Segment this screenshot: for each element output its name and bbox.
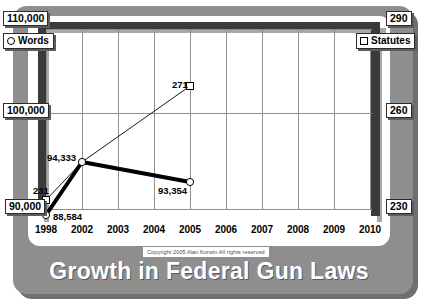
x-tick-2004: 2004 <box>134 224 174 236</box>
y-left-tick-110000: 110,000 <box>3 11 48 26</box>
right-axis-bar <box>371 22 380 216</box>
y-right-tick-290: 290 <box>386 11 412 26</box>
x-tick-2009: 2009 <box>314 224 354 236</box>
plot-area <box>46 29 372 210</box>
copyright-notice: Copyright 2005 Alan Korwin All rights re… <box>143 247 269 257</box>
x-tick-2003: 2003 <box>98 224 138 236</box>
label-words-2005: 93,354 <box>158 186 187 196</box>
x-tick-2006: 2006 <box>206 224 246 236</box>
words-marker-2005 <box>186 178 193 185</box>
legend-statutes-label: Statutes <box>371 35 410 47</box>
x-tick-1998: 1998 <box>26 224 66 236</box>
x-tick-2010: 2010 <box>350 224 390 236</box>
x-tick-2008: 2008 <box>278 224 318 236</box>
legend-words-label: Words <box>18 35 49 47</box>
circle-marker-icon <box>7 37 15 45</box>
label-statutes-1998: 231 <box>33 186 49 196</box>
y-right-tick-230: 230 <box>386 199 412 214</box>
legend-words[interactable]: Words <box>3 33 54 49</box>
chart-title: Growth in Federal Gun Laws <box>28 258 390 284</box>
y-left-tick-90000: 90,000 <box>5 199 45 214</box>
label-statutes-2005: 271 <box>172 80 188 90</box>
series-layer <box>46 29 372 210</box>
y-right-tick-260: 260 <box>386 103 412 118</box>
label-words-1998: 88,584 <box>53 212 82 222</box>
square-marker-icon <box>360 37 368 45</box>
chart-screenshot: 110,000 100,000 90,000 290 260 230 Words… <box>0 0 425 300</box>
legend-statutes[interactable]: Statutes <box>356 33 415 49</box>
words-marker-2002 <box>78 158 85 165</box>
x-tick-2005: 2005 <box>170 224 210 236</box>
label-words-2002: 94,333 <box>47 153 76 163</box>
x-tick-2002: 2002 <box>62 224 102 236</box>
y-left-tick-100000: 100,000 <box>3 103 49 118</box>
x-tick-2007: 2007 <box>242 224 282 236</box>
